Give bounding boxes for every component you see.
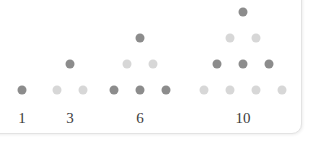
group-label-6: 6 [136, 111, 144, 126]
dot [136, 86, 145, 95]
dot-plot-area: 13610 [0, 0, 314, 141]
group-label-3: 3 [66, 111, 74, 126]
dot [136, 34, 145, 43]
dot [265, 60, 274, 69]
dot [149, 60, 158, 69]
dot [18, 86, 27, 95]
group-label-1: 1 [18, 111, 26, 126]
dot [79, 86, 88, 95]
dot [213, 60, 222, 69]
dot [226, 86, 235, 95]
dot [53, 86, 62, 95]
dot [66, 60, 75, 69]
dot [226, 34, 235, 43]
triangular-numbers-figure: 13610 [0, 0, 314, 141]
dot [278, 86, 287, 95]
dot [252, 34, 261, 43]
dot [123, 60, 132, 69]
dot [252, 86, 261, 95]
dot [162, 86, 171, 95]
dot [200, 86, 209, 95]
group-label-10: 10 [236, 111, 251, 126]
dot [239, 60, 248, 69]
dot [239, 8, 248, 17]
dot [110, 86, 119, 95]
